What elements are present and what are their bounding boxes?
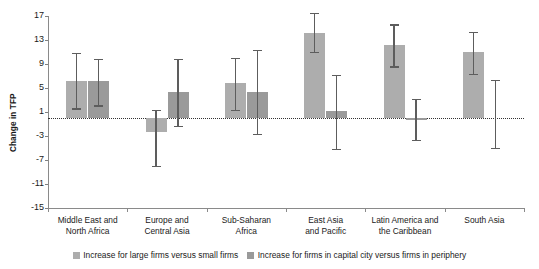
error-bar <box>415 99 416 140</box>
x-axis-tick-mark <box>286 208 287 212</box>
error-bar <box>177 59 178 126</box>
y-axis-tick-label: -11 <box>14 178 44 188</box>
error-bar-cap <box>152 166 161 167</box>
error-bar-cap <box>231 58 240 59</box>
x-axis-category-label: East Asia and Pacific <box>286 215 365 236</box>
y-axis-title: Change in TFP <box>9 93 18 152</box>
error-bar <box>393 24 394 66</box>
y-axis-tick-label: 13 <box>14 34 44 44</box>
legend-swatch-icon <box>73 252 80 259</box>
x-axis-tick-mark <box>207 208 208 212</box>
x-axis-category-label: South Asia <box>445 215 524 226</box>
x-axis-category-label: Europe and Central Asia <box>127 215 206 236</box>
tfp-change-bar-chart: Change in TFP 1713951-3-7-11-15 Middle E… <box>0 0 539 269</box>
error-bar <box>155 110 156 166</box>
error-bar-cap <box>174 126 183 127</box>
x-axis-category-label: Sub-Saharan Africa <box>207 215 286 236</box>
x-axis-tick-mark <box>445 208 446 212</box>
error-bar-cap <box>491 80 500 81</box>
y-axis-tick-label: 9 <box>14 58 44 68</box>
error-bar-cap <box>310 13 319 14</box>
error-bar <box>495 80 496 148</box>
error-bar <box>98 59 99 106</box>
x-axis-tick-mark <box>48 208 49 212</box>
error-bar <box>314 13 315 52</box>
error-bar-cap <box>469 74 478 75</box>
error-bar-cap <box>174 59 183 60</box>
chart-legend: Increase for large firms versus small fi… <box>0 250 539 260</box>
error-bar-cap <box>253 50 262 51</box>
legend-item-label: Increase for large firms versus small fi… <box>83 250 238 260</box>
x-axis-tick-mark <box>365 208 366 212</box>
error-bar-cap <box>332 75 341 76</box>
y-axis-tick-label: 1 <box>14 106 44 116</box>
x-axis-tick-mark <box>127 208 128 212</box>
error-bar-cap <box>94 59 103 60</box>
legend-swatch-icon <box>247 252 254 259</box>
error-bar-cap <box>412 99 421 100</box>
error-bar <box>257 50 258 133</box>
x-axis-category-label: Latin America and the Caribbean <box>365 215 444 236</box>
error-bar-cap <box>310 52 319 53</box>
error-bar-cap <box>332 149 341 150</box>
error-bar <box>76 53 77 109</box>
error-bar-cap <box>94 105 103 106</box>
error-bar-cap <box>72 53 81 54</box>
error-bar-cap <box>152 110 161 111</box>
y-axis-tick-label: -15 <box>14 202 44 212</box>
error-bar <box>235 58 236 110</box>
error-bar-cap <box>390 66 399 67</box>
legend-item-large-firms: Increase for large firms versus small fi… <box>73 250 238 260</box>
error-bar <box>336 75 337 149</box>
zero-reference-line <box>48 118 524 119</box>
legend-item-capital-city: Increase for firms in capital city versu… <box>247 250 466 260</box>
y-axis-line <box>48 16 49 208</box>
error-bar-cap <box>390 24 399 25</box>
error-bar-cap <box>72 108 81 109</box>
error-bar-cap <box>412 140 421 141</box>
y-axis-tick-label: 5 <box>14 82 44 92</box>
y-axis-tick-label: -7 <box>14 154 44 164</box>
x-axis-tick-mark <box>524 208 525 212</box>
legend-item-label: Increase for firms in capital city versu… <box>258 250 467 260</box>
error-bar-cap <box>469 32 478 33</box>
y-axis-tick-label: -3 <box>14 130 44 140</box>
error-bar-cap <box>231 110 240 111</box>
error-bar <box>473 32 474 75</box>
error-bar-cap <box>253 134 262 135</box>
error-bar-cap <box>491 148 500 149</box>
y-axis-tick-label: 17 <box>14 10 44 20</box>
x-axis-category-label: Middle East and North Africa <box>48 215 127 236</box>
